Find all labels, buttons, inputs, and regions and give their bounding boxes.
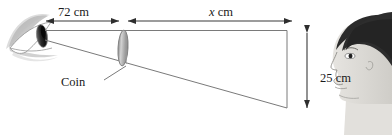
coin-eclipse-geometry-diagram: 72 cm x cm 25 cm Coin <box>0 0 392 135</box>
diagram-canvas <box>0 0 392 135</box>
label-x-variable: x <box>209 5 215 19</box>
label-25cm: 25 cm <box>320 72 351 85</box>
label-x-unit: cm <box>218 5 233 19</box>
label-coin: Coin <box>61 76 85 89</box>
label-xcm: x cm <box>209 6 233 19</box>
coin-leader-line <box>104 66 126 80</box>
label-72cm: 72 cm <box>58 6 89 19</box>
sight-line-bottom <box>45 40 287 108</box>
coin-icon <box>117 30 129 66</box>
